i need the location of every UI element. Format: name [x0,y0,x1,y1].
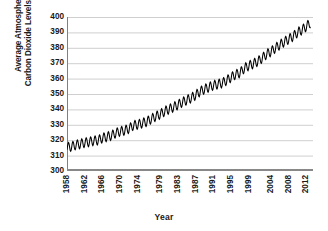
x-axis-title: Year [0,212,328,222]
x-tick-label: 1995 [227,175,235,215]
co2-chart: Average Atmospheric Carbon Dioxide Level… [0,0,328,231]
x-tick-label: 1966 [98,175,106,215]
x-tick-label: 1958 [63,175,71,215]
x-axis-tick-labels: 1958196219661970197419791983198719911995… [0,0,328,231]
x-tick-label: 1991 [209,175,217,215]
x-tick-label: 1962 [81,175,89,215]
x-tick-label: 2004 [267,175,275,215]
x-tick-label: 1974 [134,175,142,215]
x-tick-label: 1999 [245,175,253,215]
x-tick-label: 1983 [174,175,182,215]
x-tick-label: 2012 [302,175,310,215]
x-tick-label: 1979 [156,175,164,215]
x-tick-label: 1970 [116,175,124,215]
x-tick-label: 1987 [192,175,200,215]
x-tick-label: 2008 [285,175,293,215]
